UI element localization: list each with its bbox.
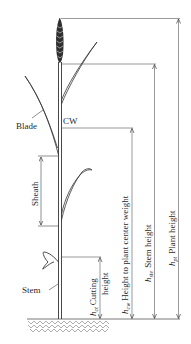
stem-pointer xyxy=(49,284,58,290)
blade-pointer xyxy=(32,110,43,118)
cutting-height-label-line2: height xyxy=(100,272,110,295)
plant-height-label: hptPlant height xyxy=(167,210,178,266)
cw-label: CW xyxy=(63,116,78,126)
stem-height-label: hsteStem height xyxy=(143,224,154,282)
wheat-height-diagram: Blade Stem CW Sheath hctCutting he xyxy=(0,0,191,344)
stem xyxy=(59,62,62,319)
blade-leaf xyxy=(25,76,59,155)
flag-leaf xyxy=(62,42,98,104)
stem-label: Stem xyxy=(22,285,41,295)
ground xyxy=(27,319,180,332)
cw-height-label: hcwHeight to plant center weight xyxy=(120,195,131,314)
middle-leaf xyxy=(62,169,93,220)
blade-label: Blade xyxy=(16,121,37,131)
cutting-height-label: hctCutting xyxy=(88,278,99,316)
sheath-dimension xyxy=(38,156,58,226)
sheath-label: Sheath xyxy=(30,181,40,206)
wheat-head xyxy=(56,18,63,63)
lower-leaf xyxy=(43,252,59,269)
